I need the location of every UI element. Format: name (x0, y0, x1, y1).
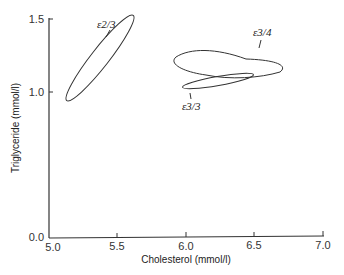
label-e3-4: ε3/4 (253, 26, 272, 38)
x-tick-6.5: 6.5 (246, 239, 261, 251)
y-tick-0.0: 0.0 (29, 231, 44, 243)
ellipse-e3-4 (174, 50, 283, 77)
chart: 1.5 1.0 0.0 5.0 5.5 6.0 6.5 7.0 Choleste… (0, 0, 344, 275)
x-tick-6.0: 6.0 (178, 240, 193, 252)
y-tick-1.0: 1.0 (29, 86, 44, 98)
x-tick-5.0: 5.0 (45, 241, 60, 253)
x-axis-label: Cholesterol (mmol/l) (141, 254, 230, 265)
ellipse-e3-3 (182, 70, 254, 91)
label-e3-3: ε3/3 (182, 100, 201, 112)
y-tick-1.5: 1.5 (29, 13, 44, 25)
label-e2-3: ε2/3 (97, 18, 116, 30)
y-axis-label: Triglyceride (mmol/l) (10, 83, 21, 173)
x-tick-7.0: 7.0 (315, 239, 330, 251)
x-tick-5.5: 5.5 (109, 240, 124, 252)
